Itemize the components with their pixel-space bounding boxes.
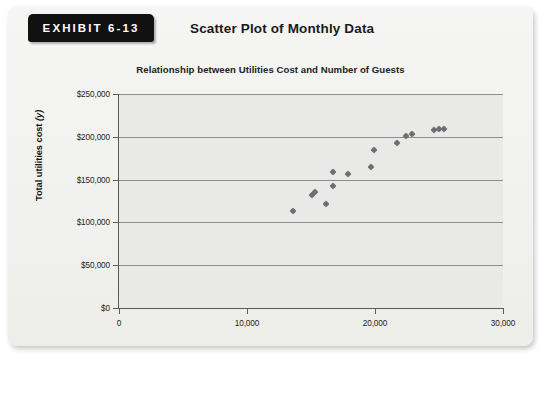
y-gridline	[119, 222, 503, 223]
scatter-point	[329, 168, 336, 175]
x-axis-tick	[503, 308, 504, 314]
y-axis-tick	[113, 180, 119, 181]
y-gridline	[119, 137, 503, 138]
y-axis-tick	[113, 265, 119, 266]
exhibit-title: Scatter Plot of Monthly Data	[190, 21, 374, 36]
y-axis-tick-label: $0	[101, 304, 110, 313]
chart-title: Relationship between Utilities Cost and …	[8, 64, 533, 75]
y-gridline	[119, 265, 503, 266]
x-axis-tick-label: 0	[117, 319, 121, 328]
y-axis-tick-label: $50,000	[81, 261, 110, 270]
y-axis-tick	[113, 94, 119, 95]
plot-area: $0$50,000$100,000$150,000$200,000$250,00…	[118, 94, 503, 309]
scatter-point	[290, 208, 297, 215]
y-axis-tick	[113, 222, 119, 223]
x-axis-tick-label: 30,000	[491, 319, 515, 328]
exhibit-tab-label: EXHIBIT 6-13	[43, 22, 140, 34]
scatter-point	[393, 139, 400, 146]
scatter-point	[368, 163, 375, 170]
y-axis-title-text: Total utilities cost	[34, 121, 44, 201]
y-axis-tick-label: $200,000	[77, 132, 110, 141]
y-variable-symbol: (y)	[34, 110, 44, 121]
scatter-point	[370, 146, 377, 153]
x-axis-tick-label: 10,000	[235, 319, 259, 328]
exhibit-card: EXHIBIT 6-13 Scatter Plot of Monthly Dat…	[8, 6, 533, 346]
y-gridline	[119, 180, 503, 181]
y-axis-tick	[113, 137, 119, 138]
y-axis-tick-label: $100,000	[77, 218, 110, 227]
y-axis-tick-label: $250,000	[77, 90, 110, 99]
x-axis-tick-label: 20,000	[363, 319, 387, 328]
scatter-point	[345, 170, 352, 177]
exhibit-card-surface: EXHIBIT 6-13 Scatter Plot of Monthly Dat…	[8, 6, 533, 346]
scatter-point	[441, 126, 448, 133]
y-axis-title: Total utilities cost (y)	[34, 110, 44, 201]
x-axis-tick	[247, 308, 248, 314]
x-axis-tick	[119, 308, 120, 314]
y-axis-tick-label: $150,000	[77, 175, 110, 184]
y-gridline	[119, 94, 503, 95]
scatter-point	[329, 182, 336, 189]
x-axis-tick	[375, 308, 376, 314]
exhibit-page: EXHIBIT 6-13 Scatter Plot of Monthly Dat…	[0, 0, 551, 409]
scatter-point	[323, 200, 330, 207]
exhibit-tab: EXHIBIT 6-13	[28, 14, 154, 42]
